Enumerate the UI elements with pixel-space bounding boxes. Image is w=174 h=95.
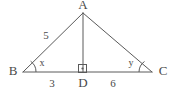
length-label-dc: 6 [110,77,116,89]
vertex-label-d: D [78,75,87,90]
length-label-bd: 3 [49,77,55,89]
vertex-label-c: C [159,63,168,78]
triangle-figure: A B C D 5 3 6 x y [0,0,174,95]
angle-arc-b [31,61,36,72]
vertex-label-a: A [78,0,88,12]
angle-label-y: y [129,57,134,68]
angle-label-x: x [40,57,45,68]
geometry-diagram-canvas: A B C D 5 3 6 x y [0,0,174,95]
segment-ac [83,13,152,72]
vertex-label-b: B [9,63,18,78]
right-angle-dot-d [81,67,83,69]
length-label-ab: 5 [43,29,49,41]
segment-ab [23,13,83,72]
